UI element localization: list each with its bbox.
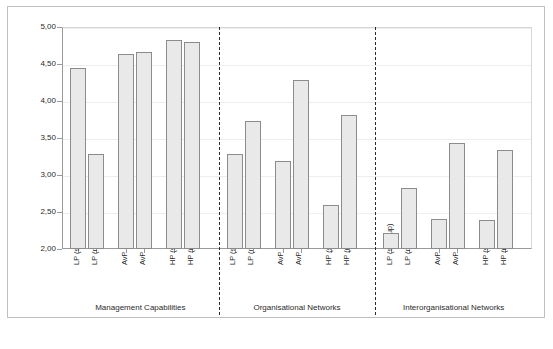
y-axis-tick-label: 4,00	[16, 96, 56, 105]
bar	[323, 205, 339, 249]
group-separator	[375, 27, 376, 315]
bar	[166, 40, 182, 249]
y-axis-tick-label: 3,50	[16, 133, 56, 142]
y-axis-tick-label: 4,50	[16, 59, 56, 68]
group-label: Interorganisational Networks	[375, 303, 532, 312]
gridline	[63, 28, 531, 29]
bar	[118, 54, 134, 249]
y-axis-tick-label: 5,00	[16, 22, 56, 31]
bar	[431, 219, 447, 249]
group-label: Management Capabilities	[62, 303, 219, 312]
bar	[275, 161, 291, 249]
bar	[245, 121, 261, 249]
group-separator	[219, 27, 220, 315]
bar	[383, 233, 399, 249]
y-axis-tick-mark	[57, 249, 62, 250]
chart-figure: 2,002,503,003,504,004,505,00 LP (start-u…	[0, 0, 553, 349]
bar	[293, 80, 309, 249]
y-axis-tick-label: 2,00	[16, 244, 56, 253]
bar	[479, 220, 495, 249]
bar	[184, 42, 200, 249]
bar	[497, 150, 513, 249]
bar	[88, 154, 104, 249]
bar	[227, 154, 243, 249]
bar	[449, 143, 465, 249]
bar	[70, 68, 86, 249]
bar	[341, 115, 357, 249]
group-label: Organisational Networks	[219, 303, 376, 312]
y-axis-tick-label: 3,00	[16, 170, 56, 179]
y-axis-tick-label: 2,50	[16, 207, 56, 216]
bar	[401, 188, 417, 249]
bar	[136, 52, 152, 249]
